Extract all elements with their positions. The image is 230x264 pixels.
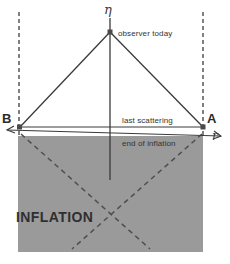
eta-axis-label: η xyxy=(104,3,112,16)
vertex-b-label: B xyxy=(2,112,11,125)
radial-axis-line xyxy=(7,130,221,136)
r-axis-label: r xyxy=(212,130,218,142)
vertex-a-label: A xyxy=(207,112,216,125)
vertex-b-marker xyxy=(17,125,22,130)
conformal-spacetime-diagram: η observer today B A r last scattering e… xyxy=(0,0,230,264)
last-scattering-label: last scattering xyxy=(122,117,173,125)
observer-today-marker xyxy=(108,30,113,35)
radial-axis-left-arrowhead xyxy=(7,126,15,133)
observer-today-label: observer today xyxy=(118,30,172,38)
past-light-cone-left-line xyxy=(20,32,110,127)
end-of-inflation-label: end of inflation xyxy=(122,140,176,148)
vertex-a-marker xyxy=(201,125,206,130)
inflation-region-label: INFLATION xyxy=(16,210,93,224)
past-light-cone-right-line xyxy=(110,32,203,127)
